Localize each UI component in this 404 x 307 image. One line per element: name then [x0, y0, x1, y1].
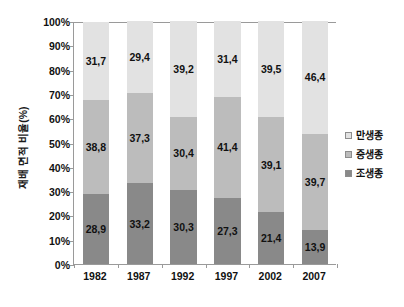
x-axis-tick-label: 1987 — [127, 270, 150, 282]
bar-value-label: 28,9 — [83, 224, 109, 235]
y-axis-tick-label: 20% — [26, 210, 70, 222]
bar-group[interactable]: 30,330,439,2 — [170, 22, 196, 264]
x-axis-tickmark — [118, 264, 119, 268]
x-axis-tick-label: 1997 — [215, 270, 238, 282]
bars-layer: 28,938,831,733,237,329,430,330,439,227,3… — [74, 22, 336, 264]
bar-segment[interactable]: 21,4 — [258, 212, 284, 264]
bar-value-label: 29,4 — [127, 52, 153, 63]
bar-group[interactable]: 13,939,746,4 — [302, 22, 328, 264]
x-axis-tickmark — [293, 264, 294, 268]
bar-segment[interactable]: 46,4 — [302, 21, 328, 134]
bar-group[interactable]: 33,237,329,4 — [127, 22, 153, 264]
bar-value-label: 30,4 — [170, 148, 196, 159]
chart-legend: 만생종중생종조생종 — [345, 128, 403, 185]
y-axis-tick-label: 90% — [26, 40, 70, 52]
plot-area: 28,938,831,733,237,329,430,330,439,227,3… — [73, 22, 336, 265]
x-axis-tickmark — [206, 264, 207, 268]
bar-segment[interactable]: 13,9 — [302, 230, 328, 264]
y-axis-tick-label: 100% — [26, 16, 70, 28]
y-axis-tick-labels: 0%10%20%30%40%50%60%70%80%90%100% — [26, 15, 70, 265]
stacked-bar-chart: 재배 면적 비율(%) 0%10%20%30%40%50%60%70%80%90… — [0, 0, 404, 307]
bar-segment[interactable]: 41,4 — [214, 97, 240, 198]
bar-segment[interactable]: 37,3 — [127, 93, 153, 184]
bar-value-label: 37,3 — [127, 133, 153, 144]
bar-value-label: 31,4 — [214, 54, 240, 65]
legend-item[interactable]: 만생종 — [345, 128, 403, 143]
bar-group[interactable]: 21,439,139,5 — [258, 22, 284, 264]
y-axis-tick-label: 40% — [26, 162, 70, 174]
legend-item-label: 만생종 — [356, 131, 383, 141]
bar-value-label: 31,7 — [83, 56, 109, 67]
bar-segment[interactable]: 30,4 — [170, 117, 196, 191]
bar-segment[interactable]: 31,4 — [214, 21, 240, 97]
legend-swatch-icon — [345, 132, 352, 139]
x-axis-tick-label: 2002 — [259, 270, 282, 282]
legend-swatch-icon — [345, 170, 352, 177]
bar-segment[interactable]: 39,1 — [258, 117, 284, 212]
y-axis-tick-label: 10% — [26, 235, 70, 247]
bar-value-label: 41,4 — [214, 142, 240, 153]
bar-value-label: 39,5 — [258, 64, 284, 75]
bar-value-label: 39,7 — [302, 177, 328, 188]
y-axis-tick-label: 0% — [26, 259, 70, 271]
y-axis-tick-label: 50% — [26, 138, 70, 150]
bar-value-label: 39,1 — [258, 160, 284, 171]
bar-segment[interactable]: 28,9 — [83, 194, 109, 264]
bar-value-label: 46,4 — [302, 72, 328, 83]
x-axis-tickmark — [337, 264, 338, 268]
bar-value-label: 33,2 — [127, 219, 153, 230]
bar-segment[interactable]: 38,8 — [83, 100, 109, 194]
y-axis-tick-label: 60% — [26, 113, 70, 125]
bar-value-label: 38,8 — [83, 142, 109, 153]
bar-segment[interactable]: 33,2 — [127, 183, 153, 264]
legend-item-label: 중생종 — [356, 150, 383, 160]
bar-group[interactable]: 27,341,431,4 — [214, 22, 240, 264]
legend-item[interactable]: 중생종 — [345, 147, 403, 162]
legend-item[interactable]: 조생종 — [345, 166, 403, 181]
x-axis-tickmark — [162, 264, 163, 268]
x-axis-tick-label: 1992 — [171, 270, 194, 282]
bar-segment[interactable]: 39,2 — [170, 21, 196, 116]
bar-value-label: 27,3 — [214, 226, 240, 237]
bar-segment[interactable]: 30,3 — [170, 190, 196, 264]
bar-group[interactable]: 28,938,831,7 — [83, 22, 109, 264]
x-axis-tickmark — [249, 264, 250, 268]
y-axis-tick-label: 30% — [26, 186, 70, 198]
x-axis-tickmark — [74, 264, 75, 268]
bar-segment[interactable]: 39,7 — [302, 134, 328, 230]
x-axis-tick-labels: 198219871992199720022007 — [73, 270, 336, 290]
bar-value-label: 13,9 — [302, 242, 328, 253]
bar-value-label: 21,4 — [258, 233, 284, 244]
y-axis-tick-label: 80% — [26, 65, 70, 77]
legend-item-label: 조생종 — [356, 169, 383, 179]
bar-segment[interactable]: 31,7 — [83, 22, 109, 99]
bar-segment[interactable]: 27,3 — [214, 198, 240, 264]
bar-segment[interactable]: 39,5 — [258, 21, 284, 117]
x-axis-tick-label: 1982 — [83, 270, 106, 282]
bar-value-label: 39,2 — [170, 64, 196, 75]
legend-swatch-icon — [345, 151, 352, 158]
x-axis-tick-label: 2007 — [302, 270, 325, 282]
bar-value-label: 30,3 — [170, 222, 196, 233]
y-axis-tick-label: 70% — [26, 89, 70, 101]
bar-segment[interactable]: 29,4 — [127, 21, 153, 92]
